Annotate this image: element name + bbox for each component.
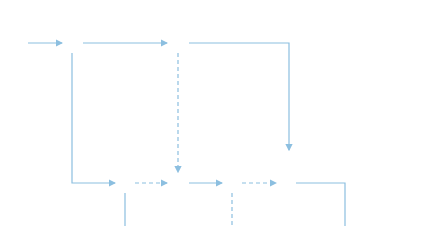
arrow-C [189, 43, 289, 150]
arrow-G [125, 193, 221, 226]
arrow-D [72, 53, 115, 183]
arrow-F [296, 183, 345, 226]
network-diagram [0, 0, 425, 226]
